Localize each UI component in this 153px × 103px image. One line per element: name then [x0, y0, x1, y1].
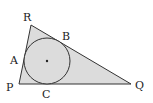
- incircle-diagram: R B A P C Q: [0, 0, 153, 103]
- tangent-label-c: C: [42, 88, 50, 101]
- tangent-label-b: B: [62, 30, 70, 43]
- incircle-center-dot: [46, 60, 48, 62]
- vertex-label-q: Q: [135, 79, 144, 92]
- vertex-label-r: R: [23, 11, 32, 24]
- vertex-label-p: P: [6, 81, 14, 94]
- tangent-label-a: A: [9, 54, 19, 67]
